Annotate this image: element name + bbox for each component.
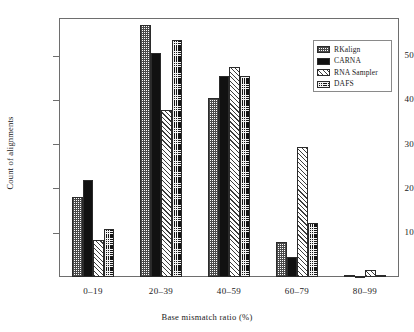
bar-dafs-40-59 [240,76,251,277]
bar-dafs-60-79 [308,223,319,277]
bar-rkalign-20-39 [140,25,151,277]
bar-rkalign-40-59 [208,98,219,277]
bar-rkalign-60-79 [276,242,287,277]
y-axis-tick-label: 40 [370,95,414,104]
legend-item-rkalign: RKalign [317,44,391,56]
legend-swatch-icon [317,69,330,76]
legend-swatch-icon [317,81,330,88]
x-axis-title: Base mismatch ratio (%) [0,312,414,322]
bar-rna-sampler-60-79 [297,147,308,277]
y-axis-tick [53,100,60,101]
bar-carna-20-39 [151,53,162,277]
bar-rna-sampler-20-39 [161,110,172,277]
bar-dafs-20-39 [172,40,183,277]
legend-label: RKalign [334,46,360,54]
bar-rna-sampler-40-59 [229,67,240,277]
x-axis-tick-label: 60–79 [262,287,332,296]
y-axis-tick [53,56,60,57]
bar-chart: 1020304050 Count of alignments 0–1920–39… [0,0,414,332]
legend-label: RNA Sampler [334,69,378,77]
bar-rna-sampler-0-19 [93,240,104,277]
legend-label: DAFS [334,80,354,88]
y-axis-tick-label: 20 [370,184,414,193]
bar-rna-sampler-80-99 [365,270,376,277]
bar-carna-40-59 [219,76,230,277]
y-axis-tick-label: 30 [370,140,414,149]
y-axis-tick [53,188,60,189]
y-axis-title: Count of alignments [5,93,15,213]
x-axis-tick-label: 20–39 [126,287,196,296]
y-axis-tick [53,144,60,145]
y-axis-tick-label: 10 [370,228,414,237]
bar-carna-80-99 [355,276,366,278]
bar-rkalign-80-99 [344,275,355,277]
bar-dafs-0-19 [104,229,115,277]
y-axis-tick [53,233,60,234]
legend-item-dafs: DAFS [317,79,391,91]
legend: RKalignCARNARNA SamplerDAFS [313,40,392,92]
legend-item-carna: CARNA [317,56,391,68]
bar-carna-60-79 [287,257,298,277]
bar-carna-0-19 [83,180,94,277]
x-axis-tick-label: 0–19 [58,287,128,296]
x-axis-tick-label: 40–59 [194,287,264,296]
legend-label: CARNA [334,57,361,65]
bar-dafs-80-99 [376,275,387,277]
legend-item-rna-sampler: RNA Sampler [317,67,391,79]
x-axis-tick-label: 80–99 [330,287,400,296]
legend-swatch-icon [317,46,330,53]
legend-swatch-icon [317,58,330,65]
bar-rkalign-0-19 [72,197,83,277]
